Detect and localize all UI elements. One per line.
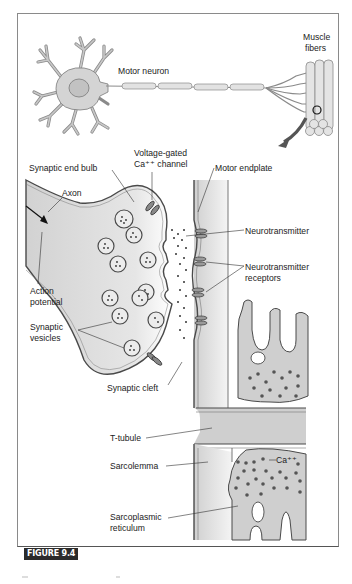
page-mark: [116, 576, 120, 578]
t-tubule-label: T-tubule: [110, 433, 141, 443]
synaptic-cleft-label: Synaptic cleft: [107, 383, 158, 393]
neurotransmitter-label: Neurotransmitter: [245, 226, 309, 236]
voltage-gated-label-2: Ca⁺⁺ channel: [134, 159, 187, 169]
muscle-fibers-label-2: fibers: [305, 43, 326, 53]
figure-label-badge: FIGURE 9.4: [24, 548, 78, 560]
action-potential-label-2: potential: [30, 297, 63, 307]
sarcolemma-label: Sarcolemma: [110, 461, 158, 471]
action-potential-label-1: Action: [30, 286, 54, 296]
sarcoplasmic-reticulum-label-1: Sarcoplasmic: [110, 512, 162, 522]
figure-label-text: FIGURE 9.4: [27, 549, 75, 558]
motor-endplate-label: Motor endplate: [215, 163, 272, 173]
neurotransmitter-receptors-label-1: Neurotransmitter: [245, 262, 309, 272]
motor-neuron-icon: [34, 38, 314, 134]
synaptic-vesicles-label-2: vesicles: [30, 333, 61, 343]
sarcoplasmic-reticulum-label-2: reticulum: [110, 523, 145, 533]
voltage-gated-label-1: Voltage-gated: [134, 148, 187, 158]
motor-neuron-label: Motor neuron: [118, 66, 169, 76]
muscle-fibers-label-1: Muscle: [303, 32, 330, 42]
neurotransmitter-dots: [171, 229, 187, 339]
calcium-label: Ca⁺⁺: [276, 455, 297, 465]
synaptic-end-bulb-label: Synaptic end bulb: [29, 163, 97, 173]
page-mark: [22, 576, 28, 578]
neurotransmitter-receptors-label-2: receptors: [245, 273, 281, 283]
axon-label: Axon: [62, 188, 82, 198]
synaptic-vesicles-label-1: Synaptic: [30, 322, 63, 332]
